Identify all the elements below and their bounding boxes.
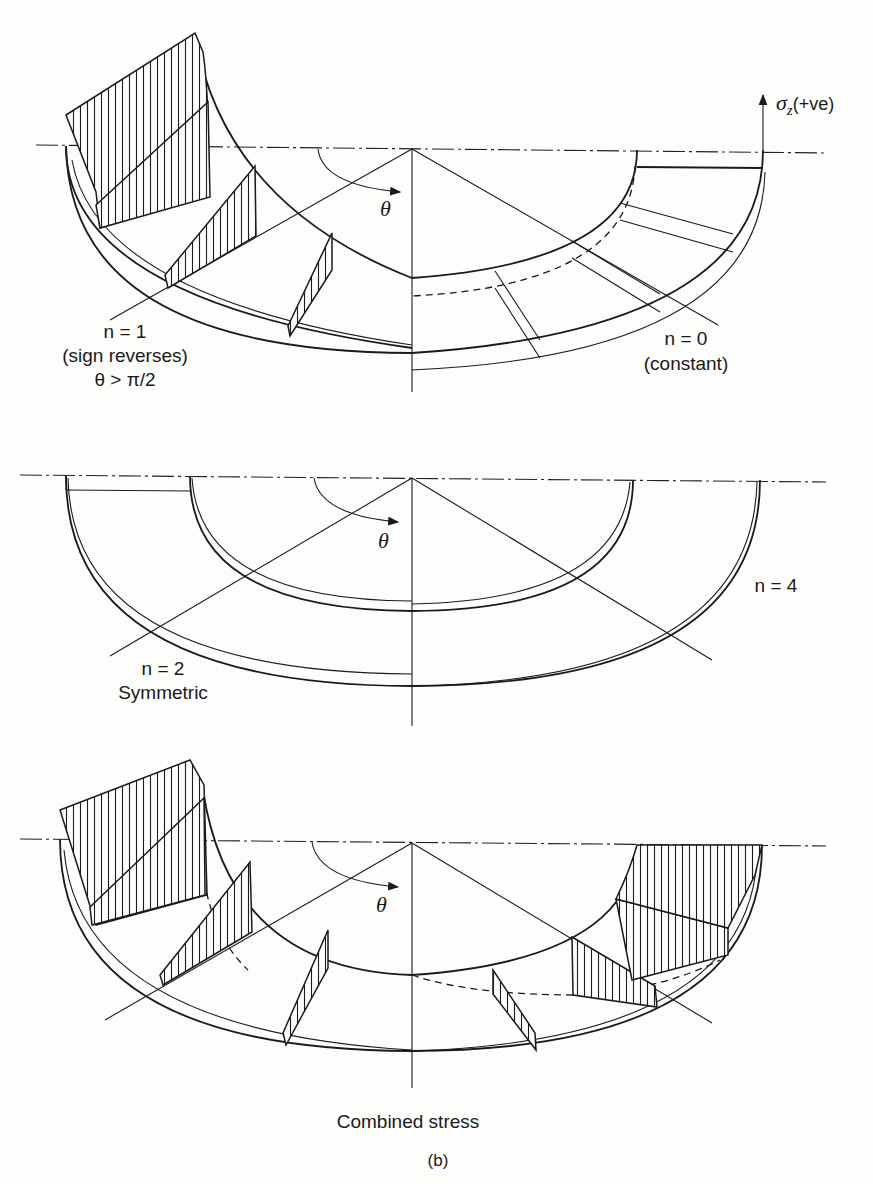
constant-stress-section-1b [620, 220, 733, 252]
label-n2-line2: Symmetric [118, 682, 208, 703]
label-n4: n = 4 [755, 575, 798, 596]
theta-label: θ [378, 528, 389, 553]
label-n0-line2: (constant) [644, 353, 728, 374]
label-n1-line3: θ > π/2 [94, 369, 155, 390]
radial-line-left [110, 478, 412, 656]
outer-rim-right-edge [412, 172, 765, 370]
label-n0-line1: n = 0 [665, 328, 708, 349]
sigma-z-label: σz(+ve) [776, 90, 834, 118]
constant-stress-section-3b [495, 288, 540, 358]
theta-arrow-icon [314, 478, 398, 522]
label-n2-line1: n = 2 [142, 658, 185, 679]
outer-ring [66, 476, 760, 686]
label-n1-line1: n = 1 [104, 321, 147, 342]
panel-bottom: θ Combined stress (b) [20, 760, 826, 1170]
constant-stress-section-1 [620, 203, 733, 234]
theta-arrow-icon [312, 842, 398, 887]
combined-stress-block-5 [493, 970, 536, 1050]
panel-middle: θ n = 4 n = 2 Symmetric [20, 475, 826, 726]
radial-line-right [412, 149, 718, 325]
panel-top: θ σz(+ve) n = 1 (sign reverses) θ > π/2 [36, 33, 834, 392]
label-combined-stress: Combined stress [337, 1111, 480, 1132]
figure-caption: (b) [428, 1151, 449, 1170]
constant-stress-section-2 [572, 241, 660, 294]
sigma-suffix: (+ve) [793, 94, 835, 114]
figure-canvas: θ σz(+ve) n = 1 (sign reverses) θ > π/2 [0, 0, 873, 1185]
label-n1-line2: (sign reverses) [62, 345, 188, 366]
theta-label: θ [376, 892, 387, 917]
outer-ring-left-top-edge [66, 490, 190, 491]
theta-label: θ [380, 196, 391, 221]
outer-ring-left-offset [68, 478, 412, 674]
stress-block-n1-4 [288, 233, 332, 336]
constant-stress-top-edge [637, 167, 763, 168]
reference-axis-line [20, 475, 826, 482]
constant-stress-section-3 [495, 271, 540, 340]
theta-arrow-icon [318, 149, 400, 192]
combined-stress-block-4 [283, 930, 328, 1045]
inner-ring-right-offset [412, 482, 630, 604]
stress-distribution-figure: θ σz(+ve) n = 1 (sign reverses) θ > π/2 [0, 0, 873, 1185]
